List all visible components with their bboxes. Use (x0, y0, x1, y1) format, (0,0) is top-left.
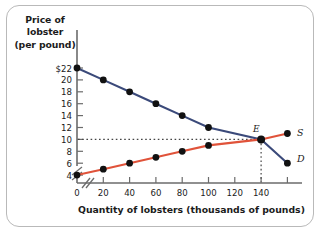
x-tick-label-120: 120 (224, 188, 246, 198)
y-tick-label-14: 14 (46, 111, 72, 121)
equilibrium-point-marker (257, 135, 265, 143)
y-tick-label-16: 16 (46, 99, 72, 109)
y-axis-title-line-1: Price of (14, 14, 76, 26)
equilibrium-label: E (253, 124, 260, 134)
x-tick-label-20: 20 (92, 188, 114, 198)
demand-curve-label: D (297, 153, 305, 164)
y-axis-title-line-2: lobster (14, 26, 76, 38)
chart-screenshot: Price of lobster (per pound) Quantity of… (0, 0, 322, 235)
y-axis-title: Price of lobster (per pound) (14, 14, 76, 51)
y-axis-title-line-3: (per pound) (14, 39, 76, 51)
y-tick-marks (77, 68, 83, 175)
y-tick-label-12: 12 (46, 123, 72, 133)
y-tick-label-20: 20 (46, 75, 72, 85)
x-tick-label-140: 140 (250, 188, 272, 198)
x-axis-title: Quantity of lobsters (thousands of pound… (78, 204, 305, 215)
x-tick-label-100: 100 (198, 188, 220, 198)
y-tick-label-8: 8 (46, 147, 72, 157)
x-tick-label-60: 60 (145, 188, 167, 198)
x-tick-label-80: 80 (171, 188, 193, 198)
y-tick-label-18: 18 (46, 87, 72, 97)
x-tick-marks (103, 177, 287, 183)
supply-curve-label: S (297, 127, 304, 138)
y-tick-label-10: 10 (46, 135, 72, 145)
y-tick-label-22: $22 (46, 64, 72, 74)
x-tick-label-40: 40 (119, 188, 141, 198)
x-tick-label-0: 0 (66, 188, 88, 198)
y-tick-label-6: 6 (46, 159, 72, 169)
y-tick-label-4: 4 (46, 171, 72, 181)
